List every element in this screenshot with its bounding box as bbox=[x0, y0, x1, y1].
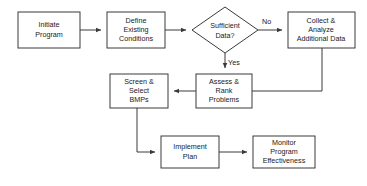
node-implement-plan[interactable]: Implement Plan bbox=[161, 136, 219, 168]
node-implement-plan-label-2: Plan bbox=[183, 152, 197, 161]
node-screen-select-bmps[interactable]: Screen & Select BMPs bbox=[110, 74, 168, 108]
node-collect-analyze-additional-data-label-3: Additional Data bbox=[297, 34, 346, 43]
node-monitor-program-effectiveness-label: Monitor bbox=[272, 138, 297, 147]
node-sufficient-data-label: Sufficient bbox=[210, 21, 239, 30]
node-implement-plan-label: Implement bbox=[173, 142, 207, 151]
node-collect-analyze-additional-data[interactable]: Collect & Analyze Additional Data bbox=[288, 12, 355, 48]
node-monitor-program-effectiveness[interactable]: Monitor Program Effectiveness bbox=[253, 136, 315, 168]
node-collect-analyze-additional-data-label-2: Analyze bbox=[308, 25, 334, 34]
node-assess-rank-problems-label-3: Problems bbox=[209, 95, 240, 104]
node-assess-rank-problems-label: Assess & bbox=[209, 77, 239, 86]
node-initiate-program[interactable]: Initiate Program bbox=[18, 12, 80, 48]
edge-collect-to-assess-feedback bbox=[252, 48, 322, 91]
node-screen-select-bmps-label: Screen & bbox=[124, 77, 154, 86]
node-define-existing-conditions[interactable]: Define Existing Conditions bbox=[107, 12, 165, 48]
node-collect-analyze-additional-data-label: Collect & bbox=[307, 16, 336, 25]
node-initiate-program-label: Initiate bbox=[38, 20, 59, 29]
flowchart-page: Initiate Program Define Existing Conditi… bbox=[0, 0, 367, 186]
node-initiate-program-label-2: Program bbox=[35, 30, 63, 39]
node-define-existing-conditions-label: Define bbox=[126, 16, 147, 25]
node-sufficient-data-label-2: Data? bbox=[215, 31, 234, 40]
node-layer: Initiate Program Define Existing Conditi… bbox=[18, 7, 355, 168]
node-screen-select-bmps-label-2: Select bbox=[129, 86, 149, 95]
node-define-existing-conditions-label-2: Existing bbox=[123, 25, 148, 34]
node-screen-select-bmps-label-3: BMPs bbox=[129, 95, 149, 104]
node-define-existing-conditions-label-3: Conditions bbox=[119, 34, 153, 43]
edge-label-yes: Yes bbox=[228, 58, 240, 67]
node-sufficient-data[interactable]: Sufficient Data? bbox=[192, 7, 258, 53]
node-assess-rank-problems[interactable]: Assess & Rank Problems bbox=[196, 74, 252, 108]
node-assess-rank-problems-label-2: Rank bbox=[216, 86, 233, 95]
flowchart-diagram: Initiate Program Define Existing Conditi… bbox=[0, 0, 367, 186]
node-monitor-program-effectiveness-label-3: Effectiveness bbox=[263, 156, 306, 165]
edge-screen-to-implement bbox=[137, 108, 155, 152]
edge-label-no: No bbox=[262, 17, 271, 26]
node-monitor-program-effectiveness-label-2: Program bbox=[270, 147, 298, 156]
